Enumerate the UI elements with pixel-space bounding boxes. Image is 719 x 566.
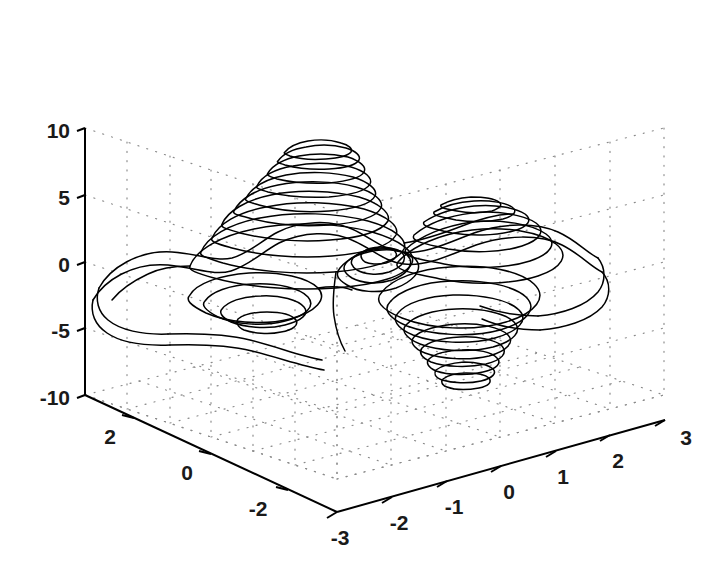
x-ticklabel-0: 0: [503, 480, 515, 503]
x-ticklabel-1: 1: [557, 465, 569, 488]
x-ticklabel-neg1: -1: [445, 495, 464, 518]
y-ticklabel-2: 2: [104, 425, 116, 448]
y-ticklabel-0: 0: [181, 461, 193, 484]
y-axis-ticklabels: 2 0 -2: [104, 425, 267, 520]
x-ticklabel-neg3: -3: [331, 526, 350, 549]
contour-saddle-1: [333, 272, 345, 351]
figure-canvas: 10 5 0 -5 -10 2 0 -2 -3 -2 -1 0 1 2 3: [0, 0, 719, 566]
x-ticklabel-neg2: -2: [390, 511, 409, 534]
z-axis-ticklabels: 10 5 0 -5 -10: [40, 119, 71, 409]
z-tick-5: [77, 195, 85, 198]
contour-ring-peak-4: [222, 191, 389, 241]
z-ticklabel-10: 10: [47, 119, 70, 142]
x-ticklabel-3: 3: [680, 426, 692, 449]
contour-level-base-1: [99, 223, 598, 288]
z-tick-0: [77, 262, 85, 265]
z-ticklabel-5: 5: [58, 186, 70, 209]
grid-back-right-wall: [337, 128, 664, 479]
contour-outer-right-2: [540, 272, 609, 330]
contour-upper-left-tail: [112, 266, 190, 300]
contour-ring-deep-valley-1: [379, 266, 540, 328]
contour-outer-left-2: [92, 300, 170, 345]
contour-lower-band-1: [168, 334, 322, 360]
contour-lower-band-2: [170, 345, 324, 370]
z-ticklabel-0: 0: [58, 253, 70, 276]
axis-lines: [85, 128, 665, 512]
z-tick-neg5: [77, 328, 85, 331]
z-ticklabel-neg10: -10: [40, 386, 70, 409]
z-ticklabel-neg5: -5: [51, 319, 70, 342]
y-ticklabel-neg2: -2: [249, 497, 268, 520]
contour-outer-left: [97, 288, 168, 334]
x-ticklabel-2: 2: [612, 449, 624, 472]
x-tick-neg3: [327, 512, 337, 518]
z-axis-ticks: [77, 128, 85, 398]
x-axis-ticklabels: -3 -2 -1 0 1 2 3: [331, 426, 692, 549]
z-tick-10: [77, 128, 85, 131]
contour3-plot: 10 5 0 -5 -10 2 0 -2 -3 -2 -1 0 1 2 3: [0, 0, 719, 566]
z-tick-neg10: [77, 395, 85, 398]
